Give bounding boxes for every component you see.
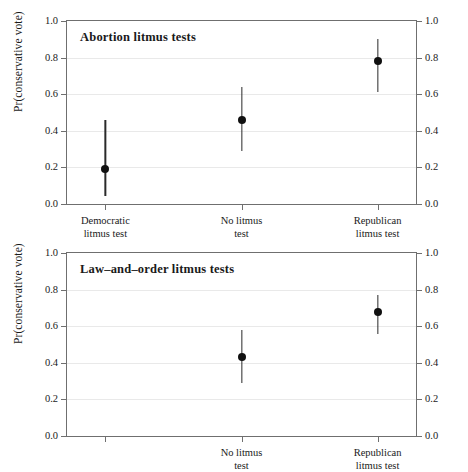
y-axis-title: Pr(conservative vote)	[12, 11, 24, 112]
y-axis-tick-label: 1.0	[45, 248, 58, 259]
y-axis-tick	[61, 21, 66, 22]
y-axis-tick-label: 0.0	[425, 431, 438, 442]
data-point	[238, 353, 246, 361]
y-axis-tick	[61, 204, 66, 205]
y-axis-tick-label: 0.2	[45, 394, 58, 405]
gridline	[67, 290, 416, 291]
y-axis-tick	[417, 58, 422, 59]
x-axis-tick-label-line: No litmus	[221, 446, 263, 459]
y-axis-tick-label: 0.8	[45, 284, 58, 295]
y-axis-tick	[61, 58, 66, 59]
y-axis-tick-label: 0.2	[45, 162, 58, 173]
y-axis-tick	[417, 253, 422, 254]
x-axis-tick-label: No litmustest	[221, 446, 263, 472]
y-axis-title: Pr(conservative vote)	[12, 243, 24, 344]
y-axis-tick	[417, 436, 422, 437]
y-axis-tick-label: 0.2	[425, 162, 438, 173]
x-axis-tick-label-line: litmus test	[354, 459, 402, 472]
y-axis-tick-label: 0.0	[45, 431, 58, 442]
y-axis-tick-label: 0.4	[45, 358, 58, 369]
y-axis-tick	[61, 363, 66, 364]
x-axis-tick-label-line: Democratic	[81, 214, 130, 227]
plot-area: 0.00.00.20.20.40.40.60.60.80.81.01.0Demo…	[66, 20, 417, 205]
y-axis-tick-label: 0.8	[425, 52, 438, 63]
y-axis-tick-label: 0.6	[45, 89, 58, 100]
y-axis-tick-label: 0.6	[425, 321, 438, 332]
y-axis-tick-label: 0.6	[425, 89, 438, 100]
x-axis-tick	[242, 204, 243, 210]
data-point	[374, 57, 382, 65]
data-point	[101, 165, 109, 173]
plot-area: 0.00.00.20.20.40.40.60.60.80.81.01.0No l…	[66, 252, 417, 437]
y-axis-tick	[417, 290, 422, 291]
data-point	[238, 116, 246, 124]
x-axis-tick	[105, 436, 106, 442]
x-axis-tick	[378, 204, 379, 210]
gridline	[67, 58, 416, 59]
y-axis-tick-label: 1.0	[425, 16, 438, 27]
y-axis-tick-label: 0.4	[425, 358, 438, 369]
y-axis-tick	[61, 290, 66, 291]
y-axis-tick	[417, 21, 422, 22]
y-axis-tick	[61, 253, 66, 254]
x-axis-tick-label: Republicanlitmus test	[354, 446, 402, 472]
y-axis-tick-label: 1.0	[425, 248, 438, 259]
x-axis-tick-label-line: Republican	[354, 214, 402, 227]
x-axis-tick	[105, 204, 106, 210]
y-axis-tick-label: 1.0	[45, 16, 58, 27]
y-axis-tick-label: 0.0	[45, 199, 58, 210]
y-axis-tick	[417, 326, 422, 327]
y-axis-tick-label: 0.4	[45, 126, 58, 137]
y-axis-tick	[61, 94, 66, 95]
y-axis-tick	[61, 326, 66, 327]
error-bar	[377, 39, 378, 92]
y-axis-tick	[417, 167, 422, 168]
y-axis-tick-label: 0.4	[425, 126, 438, 137]
y-axis-tick	[417, 363, 422, 364]
y-axis-tick	[417, 204, 422, 205]
panel-abortion-litmus-tests: Pr(conservative vote) Abortion litmus te…	[0, 0, 468, 240]
gridline	[67, 326, 416, 327]
x-axis-tick	[378, 436, 379, 442]
gridline	[67, 399, 416, 400]
y-axis-tick-label: 0.6	[45, 321, 58, 332]
y-axis-tick	[61, 436, 66, 437]
y-axis-tick	[417, 131, 422, 132]
x-axis-tick-label-line: No litmus	[221, 214, 263, 227]
x-axis-tick-label-line: test	[221, 459, 263, 472]
gridline	[67, 167, 416, 168]
y-axis-tick-label: 0.8	[425, 284, 438, 295]
error-bar	[105, 120, 106, 196]
data-point	[374, 308, 382, 316]
y-axis-tick-label: 0.0	[425, 199, 438, 210]
y-axis-tick	[61, 131, 66, 132]
panel-law-and-order-litmus-tests: Pr(conservative vote) Law–and–order litm…	[0, 232, 468, 465]
y-axis-tick-label: 0.8	[45, 52, 58, 63]
y-axis-tick	[417, 399, 422, 400]
y-axis-tick	[417, 94, 422, 95]
y-axis-tick-label: 0.2	[425, 394, 438, 405]
x-axis-tick-label-line: Republican	[354, 446, 402, 459]
y-axis-tick	[61, 399, 66, 400]
y-axis-tick	[61, 167, 66, 168]
x-axis-tick	[242, 436, 243, 442]
